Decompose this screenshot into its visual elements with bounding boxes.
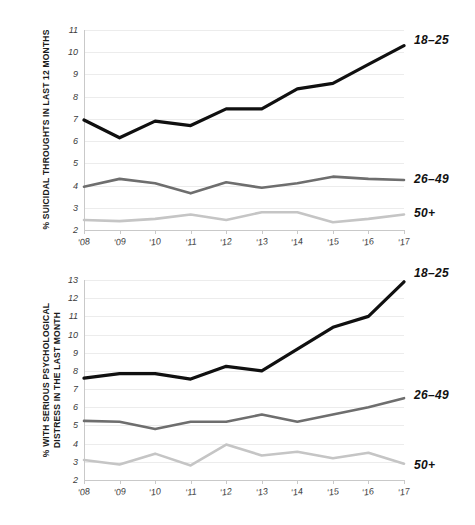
chart-1-plot [0, 0, 475, 262]
chart-2-series-label-18-25: 18–25 [414, 266, 449, 280]
chart-1-series-label-26-49: 26–49 [414, 172, 449, 186]
series-line-18-25 [84, 46, 404, 138]
chart-2-plot [0, 262, 475, 525]
series-line-50- [84, 212, 404, 222]
chart-2-series-label-50-plus: 50+ [414, 458, 435, 472]
chart-1-series-label-18-25: 18–25 [414, 33, 449, 47]
chart-2-series-label-26-49: 26–49 [414, 388, 449, 402]
series-line-26-49 [84, 177, 404, 194]
chart-1-series-label-50-plus: 50+ [414, 206, 435, 220]
chart-psychological-distress: % WITH SERIOUS PSYCHOLOGICAL DISTRESS IN… [0, 262, 475, 525]
chart-page: % SUICIDAL THROUGHTS IN LAST 12 MONTHS 2… [0, 0, 475, 525]
series-line-18-25 [84, 282, 404, 379]
series-line-26-49 [84, 398, 404, 429]
chart-suicidal-thoughts: % SUICIDAL THROUGHTS IN LAST 12 MONTHS 2… [0, 0, 475, 262]
